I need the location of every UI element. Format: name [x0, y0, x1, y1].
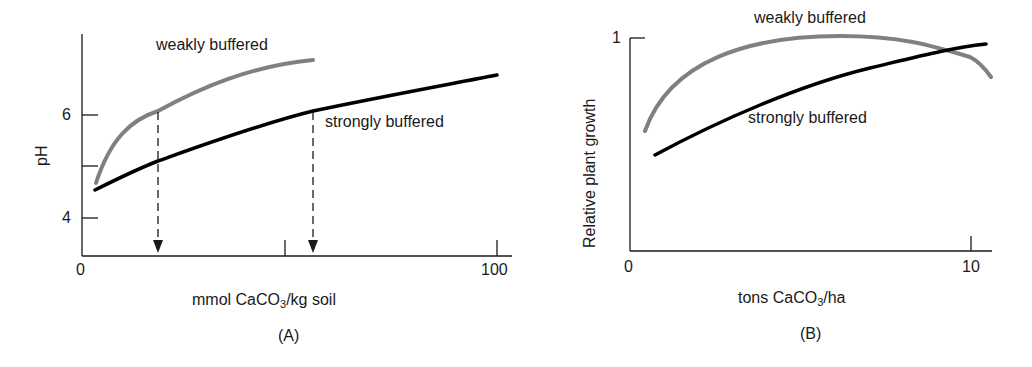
- series-label-strongly-buffered: strongly buffered: [748, 110, 867, 126]
- chart-a-plot: [0, 0, 520, 367]
- y-tick-label-6: 6: [62, 107, 71, 123]
- arrow-down-icon: [308, 240, 318, 253]
- strongly-buffered-curve: [95, 75, 497, 190]
- x-tick-label-100: 100: [481, 262, 508, 278]
- x-axis-label: tons CaCO3/ha: [738, 290, 846, 306]
- x-axis-label: mmol CaCO3/kg soil: [192, 292, 336, 308]
- series-label-strongly-buffered: strongly buffered: [325, 114, 444, 130]
- y-axis-label: pH: [34, 146, 50, 166]
- chart-panel-b: 1 0 10 Relative plant growth weakly buff…: [520, 0, 1032, 367]
- x-axis-label-text: tons CaCO: [738, 289, 817, 306]
- y-axis-label: Relative plant growth: [582, 99, 598, 248]
- chart-panel-a: 6 4 0 100 pH weakly buffered strongly bu…: [0, 0, 520, 367]
- x-axis-label-text-end: /kg soil: [286, 291, 336, 308]
- x-axis-label-text-end: /ha: [823, 289, 845, 306]
- series-label-weakly-buffered: weakly buffered: [754, 10, 866, 26]
- x-tick-label-10: 10: [962, 259, 980, 275]
- panel-caption-b: (B): [800, 325, 821, 343]
- arrow-down-icon: [153, 240, 163, 253]
- strongly-buffered-curve: [655, 44, 986, 155]
- x-tick-label-0: 0: [624, 259, 633, 275]
- x-axis-label-text: mmol CaCO: [192, 291, 280, 308]
- y-tick-label-4: 4: [62, 210, 71, 226]
- y-tick-label-1: 1: [612, 30, 621, 46]
- x-tick-label-0: 0: [76, 262, 85, 278]
- series-label-weakly-buffered: weakly buffered: [156, 37, 268, 53]
- panel-caption-a: (A): [278, 327, 299, 345]
